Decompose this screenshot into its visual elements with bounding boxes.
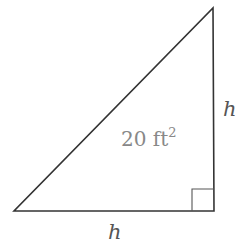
- triangle-shape: [14, 8, 214, 211]
- area-value: 20 ft: [121, 127, 168, 151]
- area-label: 20 ft2: [121, 125, 177, 151]
- right-triangle-diagram: h h 20 ft2: [0, 0, 246, 246]
- horizontal-side-label: h: [108, 220, 122, 244]
- right-angle-marker: [192, 189, 214, 211]
- vertical-side-label: h: [223, 97, 237, 121]
- area-exponent: 2: [168, 125, 176, 140]
